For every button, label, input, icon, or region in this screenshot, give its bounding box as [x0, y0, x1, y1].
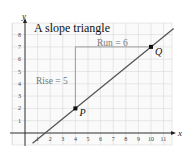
chart-title: A slope triangle [34, 21, 110, 35]
point-label-p: P [78, 107, 85, 118]
x-tick-label: 5 [87, 136, 90, 142]
x-tick-label: 4 [74, 136, 77, 142]
y-tick-label: 2 [18, 105, 21, 111]
x-tick-label: 7 [112, 136, 115, 142]
point-q [149, 45, 153, 49]
x-tick-label: 8 [124, 136, 127, 142]
point-p [73, 106, 77, 110]
y-tick-label: 6 [18, 56, 21, 62]
x-axis-label: x [177, 128, 182, 138]
x-tick-label: 3 [61, 136, 64, 142]
y-tick-label: 7 [18, 44, 21, 50]
x-tick-label: 2 [49, 136, 52, 142]
y-tick-label: 4 [18, 81, 21, 87]
x-tick-label: 6 [99, 136, 102, 142]
x-tick-label: 9 [137, 136, 140, 142]
x-axis-arrow-icon [171, 131, 176, 135]
y-tick-label: 5 [18, 69, 21, 75]
x-tick-label: 11 [161, 136, 167, 142]
run-label: Run = 6 [97, 38, 128, 48]
y-tick-label: 8 [18, 32, 21, 38]
point-label-q: Q [155, 46, 163, 57]
y-axis-label: y [21, 11, 26, 21]
y-tick-label: 3 [18, 93, 21, 99]
x-tick-label: 10 [148, 136, 154, 142]
y-tick-label: 1 [18, 118, 21, 124]
slope-chart: 123456789101112345678 PQ A slope triangl… [0, 0, 191, 155]
rise-label: Rise = 5 [36, 76, 68, 86]
